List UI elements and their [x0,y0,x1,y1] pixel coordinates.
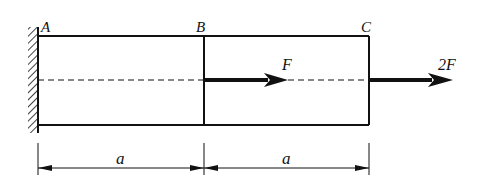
arrowhead-icon [38,165,52,171]
bar-diagram: F 2F A B C a a [0,0,483,192]
point-c-label: C [361,19,372,35]
dimension-ab-label: a [116,149,125,168]
dimension-lines [38,143,369,175]
arrowhead-icon [204,165,218,171]
dimension-bc-label: a [282,149,291,168]
point-b-label: B [196,19,205,35]
force-f-arrow [204,73,288,87]
point-a-label: A [40,19,51,35]
arrowhead-icon [355,165,369,171]
force-f-label: F [281,56,292,73]
arrowhead-icon [190,165,204,171]
force-2f-label: 2F [438,56,456,73]
wall-hatch [28,27,38,133]
fixed-wall-support [28,27,38,133]
force-2f-arrow [369,73,453,87]
